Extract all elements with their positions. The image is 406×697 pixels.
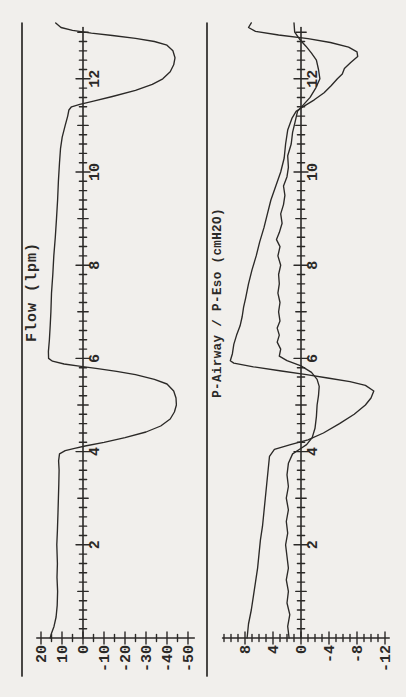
pressure-time-tick-label: 8 — [305, 261, 322, 270]
pressure-value-tick-label: 4 — [266, 645, 283, 654]
pressure-time-tick-label: 4 — [305, 447, 322, 456]
paper-background — [0, 0, 406, 697]
flow-value-tick-label: -30 — [139, 645, 156, 672]
pressure-value-tick-label: 0 — [294, 645, 311, 654]
flow-value-tick-label: 0 — [76, 645, 93, 654]
flow-time-tick-label: 12 — [87, 70, 104, 88]
flow-time-tick-label: 6 — [87, 354, 104, 363]
flow-value-tick-label: -20 — [118, 645, 135, 672]
scanned-strip-chart-page: 2468101220100-10-20-30-40-50Flow (lpm)24… — [0, 0, 406, 697]
pressure-value-tick-label: -12 — [378, 645, 395, 672]
flow-time-tick-label: 4 — [87, 447, 104, 456]
flow-value-tick-label: 10 — [55, 645, 72, 663]
pressure-chart-title: P-Airway / P-Eso (cmH2O) — [211, 208, 225, 398]
pressure-value-tick-label: -8 — [350, 645, 367, 663]
pressure-value-tick-label: 8 — [238, 645, 255, 654]
pressure-value-tick-label: -4 — [322, 645, 339, 663]
flow-chart-title: Flow (lpm) — [24, 242, 41, 342]
strip-chart-svg: 2468101220100-10-20-30-40-50Flow (lpm)24… — [0, 0, 406, 697]
pressure-time-tick-label: 10 — [305, 163, 322, 181]
pressure-time-tick-label: 6 — [305, 354, 322, 363]
flow-value-tick-label: -40 — [160, 645, 177, 672]
flow-time-tick-label: 10 — [87, 163, 104, 181]
flow-time-tick-label: 2 — [87, 540, 104, 549]
flow-value-tick-label: 20 — [34, 645, 51, 663]
flow-value-tick-label: -50 — [181, 645, 198, 672]
flow-time-tick-label: 8 — [87, 261, 104, 270]
flow-value-tick-label: -10 — [97, 645, 114, 672]
pressure-time-tick-label: 2 — [305, 540, 322, 549]
